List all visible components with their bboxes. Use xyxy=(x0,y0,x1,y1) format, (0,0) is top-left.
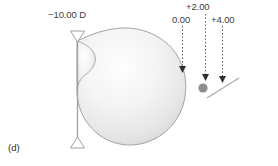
lens-power-label: −10.00 D xyxy=(48,10,86,20)
figure-caption: (d) xyxy=(8,142,20,153)
diagram-canvas xyxy=(0,0,278,166)
marker-label-plus4: +4.00 xyxy=(211,15,235,25)
marker-label-zero: 0.00 xyxy=(172,15,190,25)
eye-globe xyxy=(77,28,186,145)
reference-line-4 xyxy=(219,26,226,83)
optics-diagram-figure: −10.00 D +2.00 0.00 +4.00 (d) xyxy=(0,0,278,166)
focal-point-dot xyxy=(198,83,207,92)
reference-line-2 xyxy=(202,14,209,81)
marker-label-plus2: +2.00 xyxy=(186,2,210,12)
